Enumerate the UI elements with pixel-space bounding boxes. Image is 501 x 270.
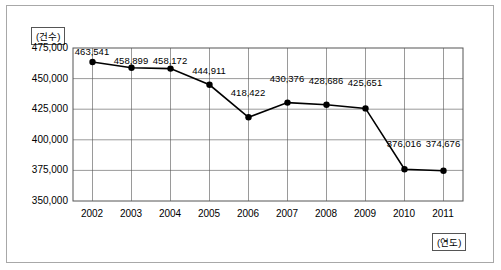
x-tick-label-2008: 2008 <box>306 208 346 219</box>
data-point-2009 <box>362 105 368 111</box>
data-point-2006 <box>245 114 251 120</box>
data-point-2007 <box>284 99 290 105</box>
y-tick-label-475000: 475,000 <box>20 42 68 53</box>
data-label-2006: 418,422 <box>224 87 272 98</box>
x-tick-label-2002: 2002 <box>72 208 112 219</box>
data-label-2005: 444,911 <box>185 65 233 76</box>
x-tick-label-2006: 2006 <box>228 208 268 219</box>
y-tick-label-400000: 400,000 <box>20 134 68 145</box>
x-tick-label-2010: 2010 <box>384 208 424 219</box>
line-chart: (건수) (연도) 475,000 450,000 425,000 400,00… <box>0 0 501 270</box>
data-point-2011 <box>440 168 446 174</box>
data-label-2009: 425,651 <box>341 77 389 88</box>
y-tick-label-450000: 450,000 <box>20 73 68 84</box>
y-tick-label-425000: 425,000 <box>20 103 68 114</box>
x-tick-label-2011: 2011 <box>423 208 463 219</box>
data-point-2008 <box>323 102 329 108</box>
x-tick-label-2005: 2005 <box>189 208 229 219</box>
x-tick-label-2004: 2004 <box>150 208 190 219</box>
data-point-2002 <box>89 59 95 65</box>
data-label-2011: 374,676 <box>419 138 467 149</box>
chart-plot-svg <box>0 0 501 270</box>
x-tick-label-2003: 2003 <box>111 208 151 219</box>
data-point-2005 <box>206 82 212 88</box>
x-tick-label-2007: 2007 <box>267 208 307 219</box>
data-point-2010 <box>401 166 407 172</box>
y-tick-label-350000: 350,000 <box>20 195 68 206</box>
x-tick-label-2009: 2009 <box>345 208 385 219</box>
y-tick-label-375000: 375,000 <box>20 164 68 175</box>
x-axis-unit-label: (연도) <box>432 233 466 251</box>
data-point-2004 <box>167 65 173 71</box>
